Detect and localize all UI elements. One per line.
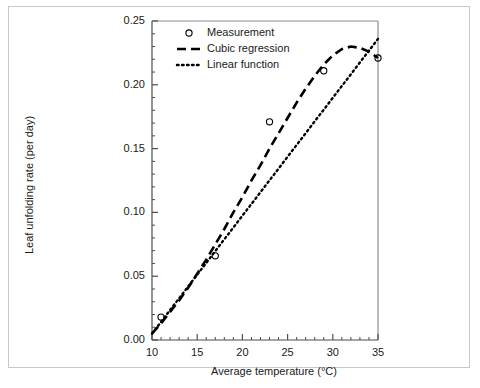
data-point-marker [266,119,272,125]
x-axis-title: Average temperature (°C) [161,365,387,377]
figure-frame: Leaf unfolding rate (per day) Average te… [8,6,470,368]
x-tick-label: 35 [358,346,398,358]
y-tick-label: 0.20 [111,78,145,90]
y-tick-label: 0.15 [111,142,145,154]
y-tick-label: 0.25 [111,14,145,26]
x-tick-label: 20 [222,346,262,358]
legend-item-label: Measurement [207,26,274,38]
y-tick-label: 0.10 [111,205,145,217]
y-tick-label: 0.05 [111,269,145,281]
legend-marker-open-circle [186,30,192,36]
y-tick-label: 0.00 [111,333,145,345]
y-axis-title: Leaf unfolding rate (per day) [23,105,35,265]
linear-function-line [152,39,378,334]
x-tick-label: 10 [132,346,172,358]
legend-item-label: Cubic regression [207,42,290,54]
x-tick-label: 15 [177,346,217,358]
x-tick-label: 30 [313,346,353,358]
legend-item-label: Linear function [207,58,279,70]
x-tick-label: 25 [268,346,308,358]
